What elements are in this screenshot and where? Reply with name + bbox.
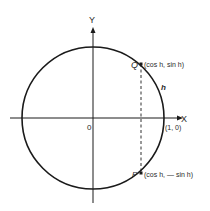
y-axis-label: Y bbox=[89, 15, 95, 25]
point-p-marker bbox=[140, 172, 143, 175]
unit-point-coords: (1, 0) bbox=[165, 124, 181, 132]
point-p-label: P bbox=[132, 170, 138, 179]
point-q-marker bbox=[140, 63, 143, 66]
arc-label: h bbox=[161, 83, 166, 92]
origin-label: 0 bbox=[87, 123, 92, 132]
unit-circle-diagram: Y X 0 Q (cos h, sin h) P (cos h, — sin h… bbox=[0, 0, 210, 211]
point-p-coords: (cos h, — sin h) bbox=[144, 171, 193, 179]
x-axis-label: X bbox=[181, 114, 187, 124]
point-q-label: Q bbox=[131, 60, 138, 70]
point-q-coords: (cos h, sin h) bbox=[144, 61, 184, 69]
y-axis-arrow-icon bbox=[91, 27, 96, 33]
